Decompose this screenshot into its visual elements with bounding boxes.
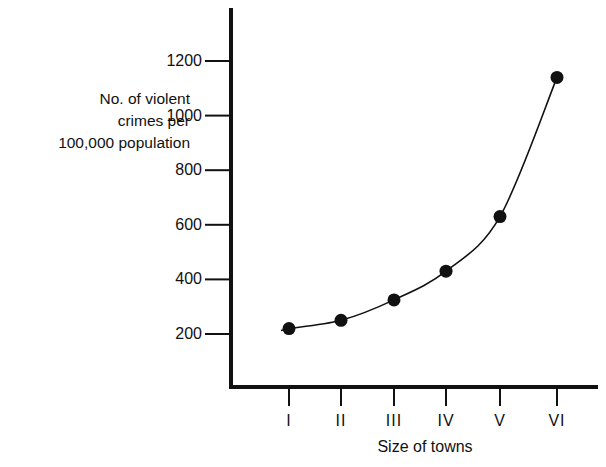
data-point-marker bbox=[335, 314, 348, 327]
data-point-marker bbox=[440, 265, 453, 278]
data-point-marker bbox=[388, 293, 401, 306]
x-tick-label: II bbox=[321, 412, 361, 430]
trend-curve bbox=[281, 77, 557, 330]
x-tick-label: IV bbox=[426, 412, 466, 430]
data-point-marker bbox=[551, 71, 564, 84]
data-point-marker bbox=[494, 210, 507, 223]
x-tick-label: V bbox=[480, 412, 520, 430]
x-ticks bbox=[289, 389, 557, 406]
data-points bbox=[283, 71, 564, 335]
y-tick-label: 1000 bbox=[142, 107, 202, 125]
y-tick-label: 1200 bbox=[142, 52, 202, 70]
y-tick-label: 400 bbox=[142, 270, 202, 288]
y-tick-label: 200 bbox=[142, 325, 202, 343]
data-point-marker bbox=[283, 322, 296, 335]
x-axis-label: Size of towns bbox=[340, 437, 510, 457]
x-tick-label: I bbox=[269, 412, 309, 430]
y-tick-label: 800 bbox=[142, 161, 202, 179]
chart: No. of violent crimes per 100,000 popula… bbox=[0, 0, 606, 467]
y-tick-label: 600 bbox=[142, 216, 202, 234]
y-ticks bbox=[205, 61, 231, 334]
x-tick-label: III bbox=[374, 412, 414, 430]
x-tick-label: VI bbox=[537, 412, 577, 430]
chart-plot bbox=[0, 0, 606, 467]
y-axis-label-line-3: 100,000 population bbox=[0, 132, 190, 154]
